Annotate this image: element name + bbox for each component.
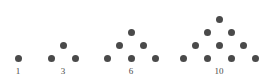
dot [216,42,223,49]
dot-group-10: 10 [0,0,278,82]
dot [228,29,235,36]
dot [216,16,223,23]
dot [252,55,259,62]
dot [204,29,211,36]
dot [204,55,211,62]
dot [228,55,235,62]
dot [240,42,247,49]
dot [192,42,199,49]
dot [180,55,187,62]
triangular-numbers-figure: 13610 [0,0,278,82]
group-label: 10 [215,66,224,76]
